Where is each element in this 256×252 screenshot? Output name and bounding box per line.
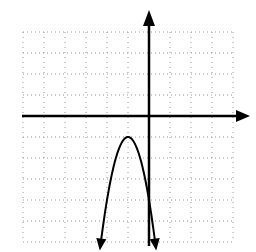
curve-left-arrow-icon — [96, 238, 106, 251]
y-axis-arrow-icon — [143, 10, 155, 26]
coordinate-axes — [22, 10, 250, 246]
x-axis-arrow-icon — [236, 110, 250, 122]
curve-right-arrow-icon — [150, 238, 160, 251]
parabola-graph — [0, 0, 256, 252]
